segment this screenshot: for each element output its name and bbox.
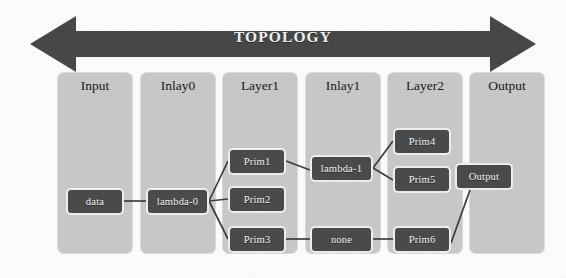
node-prim6[interactable]: Prim6: [393, 226, 451, 253]
node-none[interactable]: none: [310, 226, 373, 253]
topology-arrow-label: TOPOLOGY: [30, 28, 536, 46]
column-title-inlay0: Inlay0: [140, 78, 216, 94]
node-output[interactable]: Output: [455, 163, 513, 190]
topology-arrow: TOPOLOGY: [30, 14, 536, 74]
node-prim3[interactable]: Prim3: [228, 226, 286, 253]
column-title-layer2: Layer2: [387, 78, 463, 94]
node-data[interactable]: data: [66, 188, 124, 215]
column-title-inlay1: Inlay1: [305, 78, 381, 94]
node-prim4[interactable]: Prim4: [393, 128, 451, 155]
column-input: Input: [57, 72, 133, 254]
node-lambda-1[interactable]: lambda-1: [310, 155, 373, 182]
column-inlay0: Inlay0: [140, 72, 216, 254]
node-prim2[interactable]: Prim2: [228, 186, 286, 213]
column-title-output: Output: [469, 78, 545, 94]
column-title-input: Input: [57, 78, 133, 94]
node-prim5[interactable]: Prim5: [393, 166, 451, 193]
topology-diagram: TOPOLOGY Input Inlay0 Layer1 Inlay1 Laye…: [0, 0, 566, 278]
node-lambda-0[interactable]: lambda-0: [146, 188, 209, 215]
column-title-layer1: Layer1: [222, 78, 298, 94]
node-prim1[interactable]: Prim1: [228, 148, 286, 175]
